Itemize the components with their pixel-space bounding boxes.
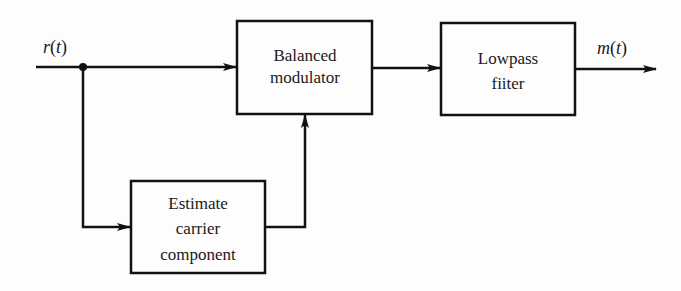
estimate-carrier-block: Estimate carrier component [131,181,265,273]
block-label-line: carrier [176,219,221,238]
lowpass-filter-block: Lowpass fiiter [441,23,575,115]
balanced-modulator-block: Balanced modulator [237,21,372,114]
block-label-line: fiiter [491,74,524,93]
input-signal-label: r(t) [43,37,67,58]
branch-line [83,67,130,227]
block-label-line: Balanced [273,46,337,65]
block-diagram: Balanced modulator Lowpass fiiter Estima… [0,0,681,291]
carrier-feedback-line [266,115,305,227]
block-label-line: modulator [270,68,340,87]
block-label-line: Lowpass [478,49,538,68]
block-label-line: Estimate [168,194,227,213]
output-signal-label: m(t) [597,38,627,59]
block-label-line: component [160,245,236,264]
